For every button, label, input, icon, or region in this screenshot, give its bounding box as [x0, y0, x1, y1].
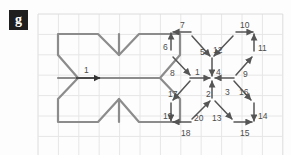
vector-label-6: 6	[163, 43, 168, 52]
vector-label-10: 10	[240, 21, 249, 30]
vector-label-8: 8	[170, 69, 175, 78]
vector-label-4: 4	[216, 68, 221, 77]
vector-label-16: 16	[239, 88, 248, 97]
vector-label-7: 7	[180, 21, 185, 30]
vector-arrow-8	[173, 57, 190, 75]
vector-label-14: 14	[258, 112, 267, 121]
vector-label-11: 11	[258, 44, 267, 53]
vector-label-19: 19	[163, 112, 172, 121]
vector-label-2: 2	[206, 90, 211, 99]
vector-label-1: 1	[195, 68, 200, 77]
vector-label-12: 12	[213, 46, 222, 55]
vector-label-17: 17	[168, 90, 177, 99]
vector-label-18: 18	[181, 129, 190, 138]
vector-label-3: 3	[225, 88, 230, 97]
figure-panel: g 1 1234567891011121314151617181920	[0, 0, 291, 155]
vector-label-5: 5	[200, 48, 205, 57]
vector-label-20: 20	[194, 114, 203, 123]
vector-label-15: 15	[240, 129, 249, 138]
shape-arrow-label-1: 1	[84, 66, 89, 75]
vector-label-13: 13	[212, 114, 221, 123]
vector-label-9: 9	[243, 70, 248, 79]
